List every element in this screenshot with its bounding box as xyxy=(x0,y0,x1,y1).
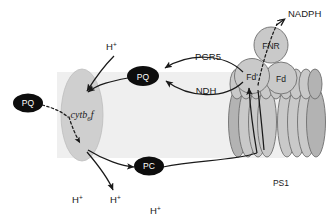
fd-label: Fd xyxy=(276,74,286,84)
fd-prime-label: Fd' xyxy=(246,72,258,82)
proton-top-charge: + xyxy=(113,41,117,48)
proton-bottom-mid-charge: + xyxy=(117,194,121,201)
cytb6f-label-main: cytb xyxy=(71,109,88,120)
pc-label: PC xyxy=(143,161,155,171)
pgr5-label: PGR5 xyxy=(195,51,221,62)
pq-membrane-label: PQ xyxy=(137,72,150,82)
proton-bottom-right-charge: + xyxy=(157,205,161,212)
nadph-arrowhead xyxy=(277,20,285,26)
diagram-canvas: PQ PQ PC cytb6f FNR Fd' Fd PS1 PGR5 NDH … xyxy=(0,0,335,224)
ndh-label: NDH xyxy=(196,85,217,96)
ps1-label: PS1 xyxy=(273,178,289,188)
proton-top: H+ xyxy=(106,41,117,53)
proton-bottom-right: H+ xyxy=(150,205,161,217)
proton-bottom-mid: H+ xyxy=(110,194,121,206)
pq-free-label: PQ xyxy=(22,98,35,108)
proton-bottom-left: H+ xyxy=(72,194,83,206)
proton-bottom-left-charge: + xyxy=(79,194,83,201)
fnr-label: FNR xyxy=(262,41,279,51)
nadph-label: NADPH xyxy=(288,8,321,19)
photosynthesis-electron-flow-diagram: PQ PQ PC cytb6f FNR Fd' Fd PS1 PGR5 NDH … xyxy=(0,0,335,224)
